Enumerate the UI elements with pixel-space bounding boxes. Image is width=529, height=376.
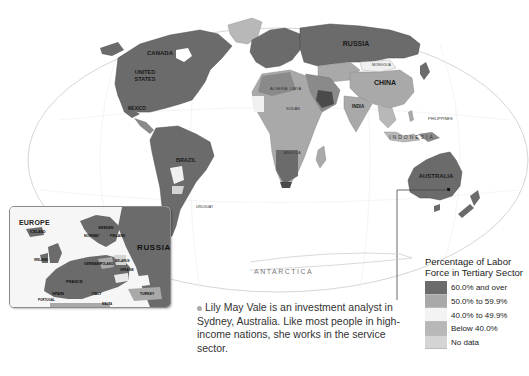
legend-item: No data [425,336,529,350]
west-africa-light [252,96,264,112]
legend-label: Below 40.0% [451,324,498,333]
svg-text:MEXICO: MEXICO [128,106,146,111]
svg-text:CANADA: CANADA [147,50,174,56]
legend-item: Below 40.0% [425,322,529,336]
legend-item: 60.0% and over [425,281,529,295]
svg-text:MALTA: MALTA [102,302,113,306]
svg-text:PHILIPPINES: PHILIPPINES [428,116,453,121]
alaska [100,42,124,56]
svg-text:URUGUAY: URUGUAY [196,205,214,209]
svg-text:POLAND: POLAND [100,262,114,266]
legend-swatch [425,281,447,295]
photo-caption: Lily May Vale is an investment analyst i… [197,301,417,355]
svg-text:CHINA: CHINA [374,79,396,86]
inset-russia-label: RUSSIA [137,243,171,252]
svg-text:IRELAND: IRELAND [34,258,49,262]
paraguay [172,186,184,194]
svg-text:BELARUS: BELARUS [115,259,130,263]
svg-text:SWEDEN: SWEDEN [98,226,114,230]
svg-text:ANGOLA: ANGOLA [284,150,301,155]
legend-label: No data [451,338,479,347]
svg-text:BRAZIL: BRAZIL [176,157,197,163]
legend-swatch [425,322,447,336]
svg-text:INDIA: INDIA [352,104,365,109]
svg-text:FRANCE: FRANCE [66,279,83,284]
legend-title-line2: Force in Tertiary Sector [425,267,529,278]
svg-text:AUSTRALIA: AUSTRALIA [419,173,454,179]
sydney-marker [447,188,450,191]
svg-text:FINLAND: FINLAND [110,234,126,238]
svg-text:TURKEY: TURKEY [140,292,155,296]
legend-swatch [425,308,447,322]
svg-text:RUSSIA: RUSSIA [343,40,369,47]
antarctica-label: ANTARCTICA [254,268,313,275]
legend-swatch [425,336,447,350]
svg-text:SPAIN: SPAIN [52,291,64,296]
legend-label: 60.0% and over [451,283,507,292]
legend-label: 50.0% to 59.9% [451,297,507,306]
svg-text:ICELAND: ICELAND [30,230,46,234]
caption-text: Lily May Vale is an investment analyst i… [197,301,400,354]
svg-text:ITALY: ITALY [92,292,102,296]
svg-text:NORWAY: NORWAY [84,234,100,238]
legend-item: 40.0% to 49.9% [425,308,529,322]
inset-title: EUROPE [19,219,50,226]
legend-item: 50.0% to 59.9% [425,295,529,309]
svg-text:LIBYA: LIBYA [290,86,301,91]
svg-text:INDONESIA: INDONESIA [389,134,435,140]
south-africa [280,182,292,188]
legend-swatch [425,295,447,309]
svg-text:SUDAN: SUDAN [286,106,300,111]
legend-title-line1: Percentage of Labor [425,256,529,267]
svg-text:ALGERIA: ALGERIA [270,86,288,91]
bullet-icon [197,306,202,311]
svg-text:STATES: STATES [135,76,156,82]
legend-label: 40.0% to 49.9% [451,311,507,320]
svg-text:PORTUGAL: PORTUGAL [38,298,55,302]
map-legend: Percentage of Labor Force in Tertiary Se… [425,256,529,349]
europe-inset: NORWAY SWEDEN FINLAND ICELAND IRELAND GE… [9,206,171,308]
svg-text:MONGOLIA: MONGOLIA [372,63,392,67]
svg-text:UNITED: UNITED [135,69,156,75]
svg-text:UKRAINE: UKRAINE [120,268,134,272]
